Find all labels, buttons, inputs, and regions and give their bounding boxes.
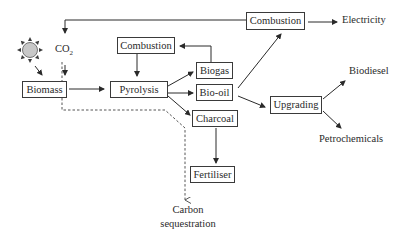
edge-combustion-to-co2 [65, 20, 246, 33]
co2-label: CO2 [55, 43, 73, 57]
edge-pyrolysis-to-charcoal [168, 96, 190, 115]
node-biodiesel: Biodiesel [349, 65, 389, 76]
upgrading-label: Upgrading [274, 99, 319, 110]
fertiliser-label: Fertiliser [194, 169, 232, 180]
node-biomass: Biomass [22, 81, 67, 98]
combustion-loop-label: Combustion [120, 40, 171, 51]
charcoal-label: Charcoal [196, 113, 234, 124]
co2-subscript: 2 [70, 49, 74, 57]
carbon-sequestration-line2: sequestration [155, 217, 221, 231]
node-fertiliser: Fertiliser [190, 166, 235, 183]
biooil-label: Bio-oil [200, 87, 230, 98]
edge-biooil-to-combustion [238, 34, 281, 88]
edge-upgrading-to-biodiesel [323, 81, 345, 99]
node-upgrading: Upgrading [270, 96, 322, 114]
biogas-label: Biogas [200, 65, 229, 76]
node-pyrolysis: Pyrolysis [110, 81, 168, 98]
node-electricity: Electricity [342, 14, 386, 25]
sun-icon [17, 37, 43, 63]
edge-biooil-to-upgrading [238, 96, 265, 107]
pyrolysis-label: Pyrolysis [119, 84, 158, 95]
edge-pyrolysis-to-biogas [168, 72, 193, 86]
edge-sun-to-biomass [35, 66, 42, 75]
carbon-sequestration-line1: Carbon [155, 203, 221, 217]
node-biooil: Bio-oil [196, 84, 233, 101]
edge-biogas-to-combustion [180, 46, 211, 62]
node-combustion-top: Combustion [246, 12, 305, 30]
node-charcoal: Charcoal [192, 110, 238, 127]
co2-text: CO [55, 43, 70, 54]
node-biogas: Biogas [196, 62, 233, 79]
electricity-label: Electricity [342, 14, 386, 25]
node-combustion-loop: Combustion [117, 37, 175, 54]
biomass-label: Biomass [26, 84, 62, 95]
petrochemicals-label: Petrochemicals [319, 133, 383, 144]
combustion-top-label: Combustion [250, 15, 301, 26]
node-carbon-sequestration: Carbon sequestration [155, 203, 221, 231]
node-petrochemicals: Petrochemicals [319, 133, 383, 144]
edge-upgrading-to-petrochemicals [323, 111, 341, 128]
biodiesel-label: Biodiesel [349, 65, 389, 76]
